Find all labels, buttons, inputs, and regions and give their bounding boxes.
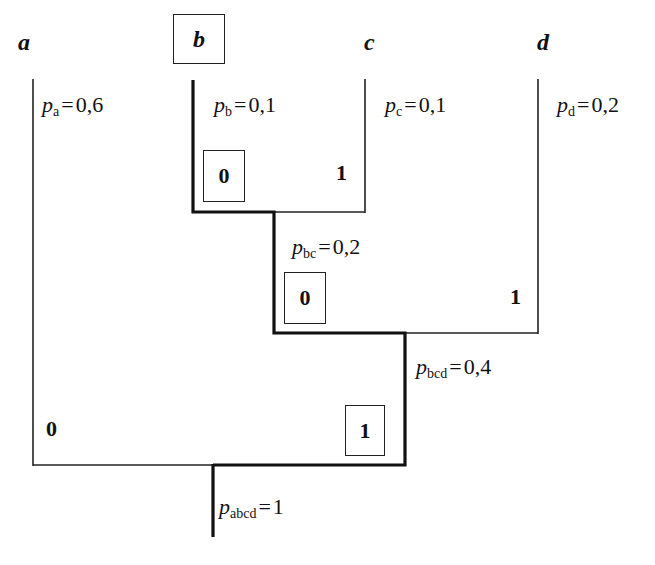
tree-edges	[0, 0, 655, 565]
prob-a: pa=0,6	[42, 94, 103, 119]
bit-box-bc-left: 0	[284, 272, 326, 324]
symbol-d: d	[537, 30, 549, 54]
bit-b-0: 0	[219, 165, 230, 187]
symbol-a: a	[18, 30, 30, 54]
bit-box-b-left: 0	[203, 150, 245, 202]
prob-bcd: pbcd=0,4	[416, 356, 491, 381]
bit-bc-0: 0	[300, 287, 311, 309]
prob-bc: pbc=0,2	[292, 236, 360, 261]
prob-abcd: pabcd=1	[219, 496, 284, 521]
bit-a-0: 0	[46, 418, 57, 440]
bit-box-bcd-right: 1	[345, 405, 385, 456]
prob-d: pd=0,2	[557, 94, 619, 119]
huffman-tree-diagram: a b c d pa=0,6 pb=0,1 pc=0,1 pd=0,2 0 1 …	[0, 0, 655, 565]
symbol-b: b	[193, 27, 205, 51]
prob-c: pc=0,1	[385, 94, 446, 119]
bit-bcd-1: 1	[360, 420, 371, 442]
prob-b: pb=0,1	[214, 94, 276, 119]
symbol-c: c	[364, 30, 375, 54]
bit-d-1: 1	[510, 286, 521, 308]
bit-c-1: 1	[336, 162, 347, 184]
symbol-b-box: b	[173, 14, 225, 64]
